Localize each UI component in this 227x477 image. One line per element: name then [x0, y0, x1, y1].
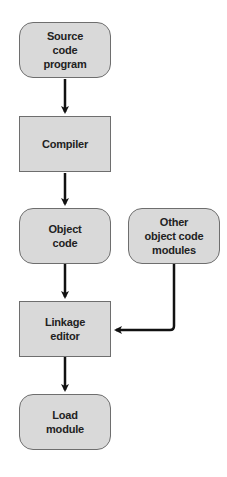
node-label: Load module: [46, 408, 84, 436]
node-load-module: Load module: [19, 394, 111, 450]
node-label: Compiler: [42, 137, 88, 151]
node-label: Linkage editor: [45, 315, 85, 343]
node-other-object-code-modules: Other object code modules: [128, 208, 220, 264]
node-compiler: Compiler: [19, 116, 111, 172]
node-label: Object code: [48, 222, 81, 250]
node-label: Source code program: [43, 29, 86, 71]
node-linkage-editor: Linkage editor: [19, 301, 111, 357]
edge-other-linkage: [116, 264, 174, 330]
node-source-code-program: Source code program: [19, 22, 111, 78]
node-object-code: Object code: [19, 208, 111, 264]
node-label: Other object code modules: [145, 215, 204, 257]
